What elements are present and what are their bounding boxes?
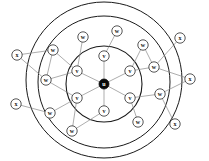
node-shape-w10	[48, 45, 58, 55]
graph-node-v5[interactable]: v	[72, 93, 82, 103]
graph-node-v1[interactable]: v	[99, 51, 109, 61]
graph-node-v6[interactable]: v	[72, 66, 82, 76]
graph-node-x3[interactable]: x	[175, 33, 185, 43]
graph-node-x2[interactable]: x	[11, 99, 21, 109]
graph-node-v4[interactable]: v	[99, 106, 109, 116]
graph-node-w2[interactable]: w	[112, 26, 122, 36]
graph-edge	[154, 67, 190, 79]
node-shape-v6	[72, 66, 82, 76]
graph-edge	[72, 111, 104, 131]
node-shape-w2	[112, 26, 122, 36]
graph-node-v2[interactable]: v	[125, 66, 135, 76]
node-shape-x3	[175, 33, 185, 43]
graph-edge	[17, 55, 46, 80]
node-shape-v5	[72, 93, 82, 103]
graph-node-w5[interactable]: w	[155, 89, 165, 99]
node-shape-v4	[99, 106, 109, 116]
node-shape-w5	[155, 89, 165, 99]
node-shape-w6	[133, 117, 143, 127]
node-shape-v3	[125, 93, 135, 103]
graph-node-u[interactable]: u	[99, 79, 109, 89]
node-shape-w4	[149, 62, 159, 72]
graph-diagram: uvvvvvvwwwwwwwwwwxxxxx	[0, 0, 209, 161]
graph-node-w6[interactable]: w	[133, 117, 143, 127]
graph-node-v3[interactable]: v	[125, 93, 135, 103]
graph-node-w1[interactable]: w	[78, 32, 88, 42]
node-shape-v1	[99, 51, 109, 61]
graph-node-x4[interactable]: x	[185, 74, 195, 84]
graph-node-x1[interactable]: x	[12, 50, 22, 60]
node-shape-w8	[45, 108, 55, 118]
graph-node-w3[interactable]: w	[138, 40, 148, 50]
node-shape-w9	[41, 75, 51, 85]
graph-canvas: uvvvvvvwwwwwwwwwwxxxxx	[0, 0, 209, 161]
node-shape-w1	[78, 32, 88, 42]
graph-node-w4[interactable]: w	[149, 62, 159, 72]
node-shape-x5	[170, 119, 180, 129]
graph-node-w9[interactable]: w	[41, 75, 51, 85]
graph-node-w10[interactable]: w	[48, 45, 58, 55]
node-shape-w7	[67, 126, 77, 136]
node-shape-w3	[138, 40, 148, 50]
graph-node-w8[interactable]: w	[45, 108, 55, 118]
graph-node-w7[interactable]: w	[67, 126, 77, 136]
node-shape-v2	[125, 66, 135, 76]
graph-node-x5[interactable]: x	[170, 119, 180, 129]
node-shape-x4	[185, 74, 195, 84]
node-shape-x1	[12, 50, 22, 60]
node-shape-u	[99, 79, 109, 89]
node-shape-x2	[11, 99, 21, 109]
